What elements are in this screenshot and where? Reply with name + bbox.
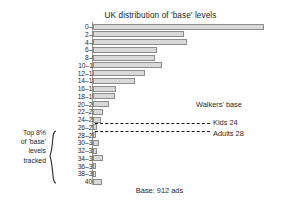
bar xyxy=(93,148,97,154)
bar xyxy=(93,55,155,61)
y-tick-label: 2–3 xyxy=(36,31,96,38)
walkers-base-label: Walkers' base xyxy=(196,100,242,109)
y-tick-label: 16–17 xyxy=(36,85,96,92)
top8-caption-line-1: Top 8% xyxy=(2,128,46,137)
bar xyxy=(93,70,145,76)
y-tick-label: 38–39 xyxy=(36,170,96,177)
y-tick-label: 18–19 xyxy=(36,93,96,100)
adults-threshold-line xyxy=(95,131,210,132)
bar xyxy=(93,31,184,37)
y-tick-label: 14–15 xyxy=(36,77,96,84)
bar xyxy=(93,132,96,138)
bar xyxy=(93,93,115,99)
top8-caption-line-4: tracked xyxy=(2,156,46,165)
y-tick-label: 10–11 xyxy=(36,62,96,69)
adults-label: Adults 28 xyxy=(213,129,244,138)
top8-caption: Top 8% of 'base' levels tracked xyxy=(2,128,46,165)
y-tick-label: 24–25 xyxy=(36,116,96,123)
bar xyxy=(93,47,157,53)
bar xyxy=(93,101,109,107)
top8-caption-line-2: of 'base' xyxy=(2,137,46,146)
bar xyxy=(93,163,96,169)
y-tick-label: 20–21 xyxy=(36,101,96,108)
chart-figure: UK distribution of 'base' levels 0–12–34… xyxy=(0,0,293,203)
plot-area: 0–12–34–56–78–910–1112–1314–1516–1718–19… xyxy=(0,0,293,203)
bar xyxy=(93,117,101,123)
kids-label: Kids 24 xyxy=(213,118,238,127)
y-tick-label: 0–1 xyxy=(36,23,96,30)
bar xyxy=(93,78,135,84)
y-tick-label: 6–7 xyxy=(36,46,96,53)
bar xyxy=(93,86,116,92)
bar xyxy=(93,171,96,177)
bar xyxy=(93,39,187,45)
bar xyxy=(93,109,103,115)
y-tick-label: 8–9 xyxy=(36,54,96,61)
kids-threshold-line xyxy=(95,123,210,124)
range-brace-icon xyxy=(47,130,57,184)
bar xyxy=(93,62,162,68)
bar xyxy=(93,155,103,161)
y-tick-label: 22–23 xyxy=(36,108,96,115)
bar xyxy=(93,140,99,146)
chart-footnote: Base: 912 ads xyxy=(0,186,293,195)
y-tick-label: 40+ xyxy=(36,178,96,185)
y-tick-label: 12–13 xyxy=(36,70,96,77)
top8-caption-line-3: levels xyxy=(2,146,46,155)
y-tick-label: 4–5 xyxy=(36,39,96,46)
bar xyxy=(93,179,102,185)
bar xyxy=(93,24,264,30)
bar xyxy=(93,124,97,130)
